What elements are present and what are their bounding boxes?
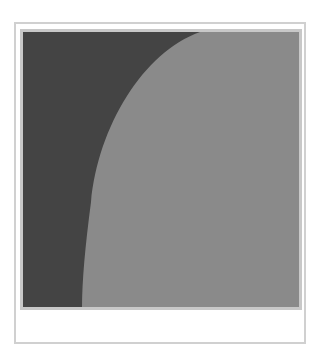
- caption-area: [20, 312, 302, 340]
- artwork-shapes: [23, 32, 299, 307]
- artwork-image[interactable]: [23, 32, 299, 307]
